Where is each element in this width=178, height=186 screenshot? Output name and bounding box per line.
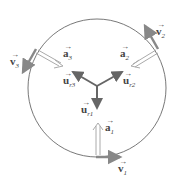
acceleration-a1 — [93, 123, 103, 155]
diagram-canvas — [0, 0, 178, 186]
label-ur1: →ur1 — [81, 104, 93, 118]
unit-vector-ur2 — [97, 72, 122, 86]
label-ur3: →ur3 — [63, 75, 75, 89]
label-ur2: →ur2 — [123, 75, 135, 89]
label-v3: →v3 — [10, 56, 19, 70]
acceleration-a2 — [131, 50, 158, 68]
label-v2: →v2 — [156, 26, 165, 40]
label-a2: →a2 — [120, 48, 129, 62]
acceleration-a3 — [36, 50, 63, 68]
label-a3: →a3 — [63, 48, 72, 62]
unit-vector-ur3 — [73, 72, 97, 86]
label-v1: →v1 — [118, 163, 127, 177]
label-a1: →a1 — [105, 122, 114, 136]
